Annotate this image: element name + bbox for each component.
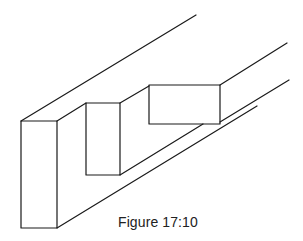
joint-line-drawing (0, 0, 303, 241)
middle-block-face (86, 103, 120, 175)
front-block-face (21, 121, 57, 228)
figure-canvas: Figure 17:10 (0, 0, 303, 241)
right-block-bottom-edge (220, 80, 289, 122)
figure-caption: Figure 17:10 (118, 214, 198, 230)
middle-block-base-edge (120, 124, 203, 175)
front-block-top-edge (57, 103, 86, 121)
right-block-top-edge (220, 43, 287, 85)
middle-block-top-edge (120, 86, 149, 103)
right-block-face (149, 85, 220, 124)
beam-top-edge (21, 15, 196, 121)
